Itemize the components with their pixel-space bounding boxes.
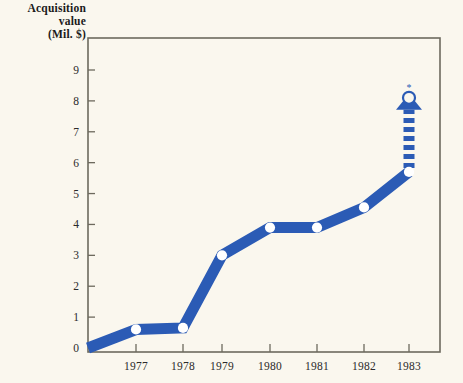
data-point-marker (265, 222, 275, 232)
y-tick-label: 0 (73, 342, 79, 354)
x-tick-label: 1983 (397, 360, 421, 372)
projected-value-marker (403, 92, 415, 104)
x-axis-ticks (136, 344, 409, 352)
x-axis-tick-labels: 1977197819791980198119821983 (124, 360, 421, 372)
data-point-marker (131, 324, 141, 334)
x-tick-label: 1981 (305, 360, 329, 372)
data-point-marker (217, 250, 227, 260)
y-tick-label: 2 (73, 280, 79, 292)
y-tick-label: 6 (73, 157, 79, 169)
x-tick-label: 1979 (210, 360, 234, 372)
y-tick-label: 4 (73, 218, 79, 230)
y-tick-label: 8 (73, 95, 79, 107)
projection-asterisk: * (407, 82, 412, 93)
y-tick-label: 5 (73, 188, 79, 200)
x-tick-label: 1978 (171, 360, 195, 372)
y-axis-tick-labels: 0123456789 (73, 64, 79, 354)
data-point-marker (312, 222, 322, 232)
x-tick-label: 1980 (258, 360, 282, 372)
projection-arrow (396, 92, 422, 168)
data-point-marker (359, 202, 369, 212)
y-tick-label: 3 (73, 249, 79, 261)
x-tick-label: 1982 (352, 360, 376, 372)
data-point-marker (404, 167, 414, 177)
y-axis-ticks (88, 70, 95, 348)
y-tick-label: 9 (73, 64, 79, 76)
series-path (88, 172, 409, 348)
acquisition-value-line-chart: Acquisition value (Mil. $) 0123456789 19… (0, 0, 463, 383)
data-point-marker (178, 323, 188, 333)
x-tick-label: 1977 (124, 360, 148, 372)
chart-svg: 0123456789 1977197819791980198119821983 … (0, 0, 463, 383)
data-series-line (88, 172, 409, 348)
data-point-markers (131, 167, 414, 335)
y-tick-label: 1 (73, 311, 79, 323)
y-tick-label: 7 (73, 126, 79, 138)
